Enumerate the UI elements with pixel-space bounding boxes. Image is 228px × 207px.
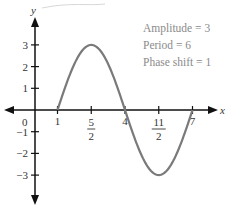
- x-tick-label-numerator: 11: [153, 116, 164, 128]
- scan-artifact: [42, 4, 105, 8]
- x-tick-label-denominator: 2: [89, 130, 95, 142]
- y-tick-label: 1: [23, 82, 29, 94]
- sine-graph: x y 15241127 321−1−2−3 0 Amplitude = 3 P…: [0, 0, 228, 207]
- y-axis-label: y: [30, 4, 36, 16]
- phase-shift-annotation: Phase shift = 1: [143, 56, 211, 68]
- y-axis-up-arrow-icon: [31, 17, 39, 27]
- y-tick-label: −3: [16, 169, 28, 181]
- x-tick-label-numerator: 5: [89, 116, 95, 128]
- x-axis-label: x: [219, 104, 225, 116]
- origin-label: 0: [22, 116, 28, 128]
- x-axis-right-arrow-icon: [208, 106, 218, 114]
- period-annotation: Period = 6: [143, 39, 191, 51]
- y-tick-label: 2: [23, 61, 29, 73]
- amplitude-annotation: Amplitude = 3: [143, 22, 210, 35]
- x-tick-label: 1: [55, 115, 61, 127]
- y-axis-down-arrow-icon: [31, 195, 39, 205]
- x-tick-label-denominator: 2: [156, 130, 162, 142]
- x-axis-left-arrow-icon: [4, 106, 14, 114]
- y-tick-label: 3: [23, 39, 29, 51]
- y-tick-label: −2: [16, 147, 28, 159]
- annotations: Amplitude = 3 Period = 6 Phase shift = 1: [143, 22, 211, 68]
